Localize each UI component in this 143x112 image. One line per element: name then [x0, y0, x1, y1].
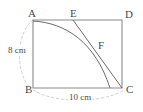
vertex-label-c: C — [126, 84, 133, 95]
vertex-label-d: D — [125, 9, 133, 20]
dimension-label-width: 10 cm — [68, 93, 92, 102]
vertex-label-b: B — [25, 84, 32, 95]
vertex-label-e: E — [70, 8, 77, 19]
geometry-figure: A E D B C F 8 cm 10 cm — [0, 0, 143, 112]
rectangle-abcd — [33, 20, 122, 88]
vertex-label-f: F — [98, 40, 104, 51]
crease-line-e-to-c — [73, 20, 122, 88]
dimension-label-height: 8 cm — [7, 46, 27, 55]
vertex-label-a: A — [28, 8, 36, 19]
